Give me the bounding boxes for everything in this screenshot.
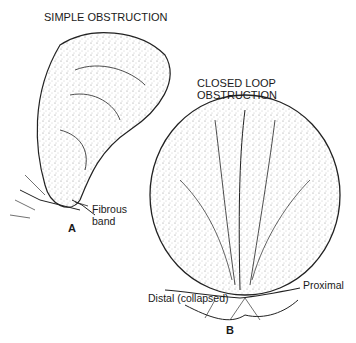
panel-a-title: SIMPLE OBSTRUCTION [44,11,167,23]
fibrous-label-line2: band [92,215,115,227]
panel-b-title-line1: CLOSED LOOP [197,77,276,89]
proximal-label: Proximal [303,279,344,291]
simple-obstruction-loop [10,33,170,218]
distal-label: Distal (collapsed) [148,292,229,304]
fibrous-label-line1: Fibrous [92,203,127,215]
panel-a-letter: A [68,222,76,234]
panel-b-letter: B [226,324,234,336]
panel-b-title-line2: OBSTRUCTION [197,89,277,101]
